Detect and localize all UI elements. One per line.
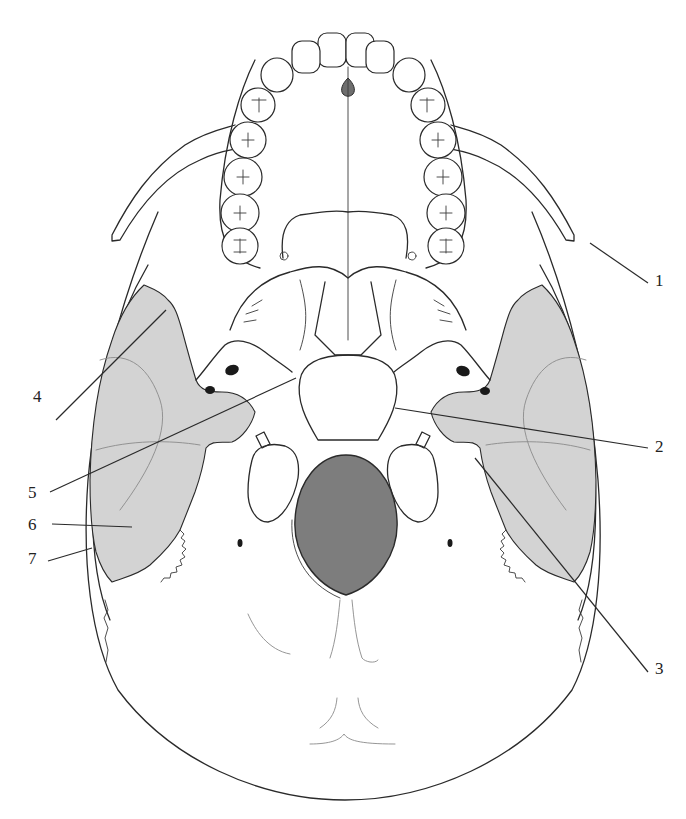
label-6: 6 (28, 516, 37, 533)
foramen-magnum (295, 455, 397, 595)
occipital-condyle-left (248, 445, 298, 522)
label-5: 5 (28, 484, 37, 501)
petrous-right (394, 341, 490, 380)
jugular-foramen-left (205, 386, 215, 394)
teeth-upper-arch (221, 33, 465, 264)
shaded-region-right (431, 285, 596, 582)
label-3: 3 (655, 660, 664, 677)
label-7: 7 (28, 550, 37, 567)
carotid-canal-right (455, 364, 472, 378)
basilar-occipital (299, 355, 397, 440)
label-2: 2 (655, 438, 664, 455)
label-4: 4 (33, 388, 42, 405)
skull-base-illustration (0, 0, 686, 819)
petrous-left (196, 341, 292, 380)
leader-line-1 (590, 243, 648, 283)
carotid-canal-left (224, 363, 241, 377)
leader-line-7 (48, 548, 92, 561)
posterior-palate (282, 211, 407, 258)
jugular-foramen-right (480, 387, 490, 395)
skull-base-diagram: 1 2 3 4 5 6 7 (0, 0, 686, 819)
label-1: 1 (655, 272, 664, 289)
